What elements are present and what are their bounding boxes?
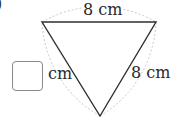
top-side-label: 8 cm: [82, 2, 123, 18]
right-side-label: 8 cm: [130, 65, 171, 81]
answer-input-box[interactable]: [12, 61, 43, 91]
left-side-unit-label: cm: [47, 66, 73, 82]
reuleaux-triangle-figure: ) 8 cm 8 cm cm: [0, 0, 171, 123]
